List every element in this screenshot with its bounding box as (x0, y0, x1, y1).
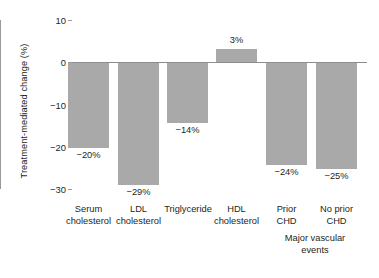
category-label-serum-cholesterol: Serum cholesterol (60, 204, 117, 227)
category-label-line2: cholesterol (110, 216, 167, 228)
category-label-prior-chd: Prior CHD (258, 204, 315, 227)
bar-no-prior-chd (316, 63, 357, 169)
bar-triglyceride (167, 63, 208, 123)
category-label-line1: Serum (60, 204, 117, 216)
y-axis-title: Treatment-mediated change (%) (19, 21, 29, 201)
bar-value-triglyceride: −14% (162, 126, 213, 135)
category-label-line1: No prior (308, 204, 365, 216)
group-label-line2: events (253, 245, 377, 257)
y-tick-mark-neg30 (68, 189, 72, 190)
category-label-line1: HDL (208, 204, 265, 216)
category-label-line2: cholesterol (208, 216, 265, 228)
bar-value-no-prior-chd: −25% (311, 172, 362, 181)
bar-value-serum-cholesterol: −20% (63, 151, 114, 160)
category-label-line1: Prior (258, 204, 315, 216)
bar-hdl-cholesterol (216, 49, 257, 62)
group-label-major-vascular-events: Major vascular events (253, 233, 377, 256)
category-label-line2: cholesterol (60, 216, 117, 228)
bar-value-hdl-cholesterol: 3% (211, 36, 262, 45)
bar-ldl-cholesterol (118, 63, 159, 185)
y-tick-label-10: 10 (26, 16, 66, 25)
category-label-line2: CHD (258, 216, 315, 228)
y-tick-label-neg30: −30 (26, 185, 66, 194)
y-tick-mark-10 (68, 20, 72, 21)
bar-value-ldl-cholesterol: −29% (113, 188, 164, 197)
group-label-line1: Major vascular (253, 233, 377, 245)
y-tick-label-neg10: −10 (26, 101, 66, 110)
y-axis-spine (0, 20, 1, 189)
category-label-line2: CHD (308, 216, 365, 228)
bar-serum-cholesterol (68, 63, 109, 148)
bar-value-prior-chd: −24% (261, 168, 312, 177)
y-tick-label-neg20: −20 (26, 143, 66, 152)
category-label-hdl-cholesterol: HDL cholesterol (208, 204, 265, 227)
bar-prior-chd (266, 63, 307, 165)
bar-chart: Treatment-mediated change (%) 10 0 −10 −… (0, 0, 379, 278)
y-tick-label-0: 0 (26, 58, 66, 67)
category-label-no-prior-chd: No prior CHD (308, 204, 365, 227)
